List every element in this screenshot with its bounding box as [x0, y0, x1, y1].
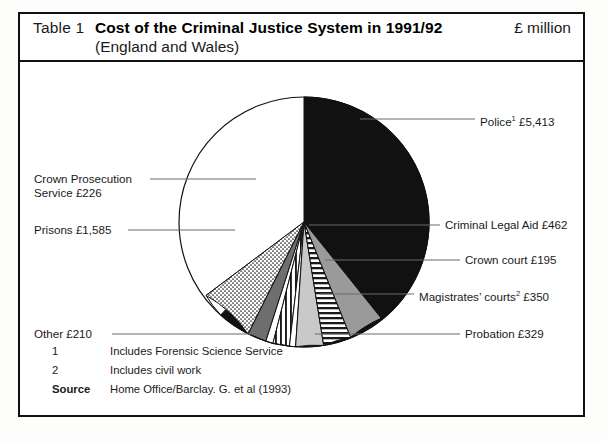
label-other: Other £210	[34, 327, 92, 341]
table-title: Cost of the Criminal Justice System in 1…	[95, 19, 442, 37]
table-units: £ million	[514, 19, 571, 37]
footnote-key: 2	[52, 364, 58, 376]
table-header: Table 1 Cost of the Criminal Justice Sys…	[20, 14, 583, 62]
label-probation: Probation £329	[465, 327, 544, 341]
table-subtitle: (England and Wales)	[95, 38, 239, 56]
label-cps-line2: Service £226	[34, 186, 132, 200]
label-prisons: Prisons £1,585	[34, 223, 111, 237]
label-magistrates-text: Magistrates’ courts	[419, 290, 516, 303]
label-crown-court: Crown court £195	[465, 253, 557, 267]
table-frame: Table 1 Cost of the Criminal Justice Sys…	[18, 12, 585, 417]
label-police: Police1 £5,413	[480, 112, 554, 129]
figure-page: Table 1 Cost of the Criminal Justice Sys…	[0, 0, 607, 442]
source-key: Source	[52, 383, 90, 395]
label-magistrates-value: £350	[523, 290, 549, 303]
label-magistrates-superscript: 2	[516, 289, 520, 298]
label-police-text: Police	[480, 115, 512, 128]
footnote-row: 2 Includes civil work	[52, 364, 552, 383]
label-crown-prosecution-service: Crown Prosecution Service £226	[34, 172, 132, 200]
label-cps-line1: Crown Prosecution	[34, 172, 132, 186]
label-magistrates-courts: Magistrates’ courts2 £350	[419, 287, 549, 304]
footnote-row: 1 Includes Forensic Science Service	[52, 345, 552, 364]
label-criminal-legal-aid: Criminal Legal Aid £462	[445, 218, 567, 232]
source-text: Home Office/Barclay. G. et al (1993)	[110, 383, 291, 395]
table-number: Table 1	[33, 19, 84, 37]
label-police-value: £5,413	[519, 115, 554, 128]
footnote-text: Includes civil work	[110, 364, 201, 376]
footnote-key: 1	[52, 345, 58, 357]
footnotes: 1 Includes Forensic Science Service 2 In…	[52, 345, 552, 402]
footnote-text: Includes Forensic Science Service	[110, 345, 283, 357]
label-police-superscript: 1	[512, 114, 516, 123]
source-row: Source Home Office/Barclay. G. et al (19…	[52, 383, 552, 402]
